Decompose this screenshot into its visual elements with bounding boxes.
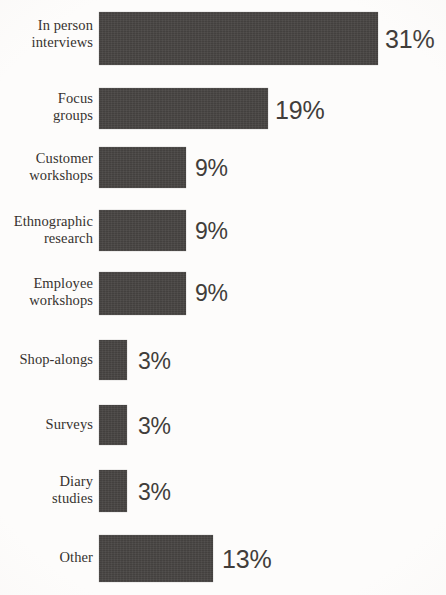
bar-category-label-line2: groups: [53, 107, 93, 123]
bar-row: Employee workshops 9%: [0, 272, 446, 315]
bar-category-label-line1: Surveys: [46, 416, 93, 432]
bar-row: Surveys 3%: [0, 405, 446, 445]
bar-row: Diary studies 3%: [0, 470, 446, 512]
horizontal-bar-chart: In person interviews 31% Focus groups 19…: [0, 0, 446, 595]
bar-value-label: 31%: [385, 27, 434, 52]
bar-category-label-line1: Employee: [33, 275, 93, 291]
bar-row: Ethnographic research 9%: [0, 210, 446, 251]
bar-category-label-line2: interviews: [32, 34, 93, 50]
bar: [99, 147, 186, 188]
bar-category-label-line2: research: [44, 230, 93, 246]
bar-category-label: Focus groups: [0, 90, 93, 124]
bar-row: Other 13%: [0, 535, 446, 582]
bar: [99, 272, 186, 315]
bar-category-label-line1: Ethnographic: [14, 213, 93, 229]
bar: [99, 535, 213, 582]
bar-value-label: 9%: [195, 282, 228, 305]
bar-category-label-line1: Focus: [58, 90, 93, 106]
bar: [99, 405, 127, 445]
bar-category-label: Surveys: [0, 416, 93, 433]
bar-category-label-line2: workshops: [29, 167, 93, 183]
bar: [99, 88, 268, 129]
bar-row: In person interviews 31%: [0, 12, 446, 65]
bar-value-label: 19%: [275, 98, 324, 123]
bar-row: Shop-alongs 3%: [0, 340, 446, 380]
bar-row: Customer workshops 9%: [0, 147, 446, 188]
bar-category-label: Shop-alongs: [0, 351, 93, 368]
bar-value-label: 9%: [195, 220, 228, 243]
bar-category-label: Ethnographic research: [0, 213, 93, 247]
bar-value-label: 13%: [222, 547, 271, 572]
bar-category-label-line1: Other: [59, 549, 93, 565]
bar-value-label: 3%: [138, 350, 171, 373]
bar-category-label-line1: Diary: [59, 473, 93, 489]
bar: [99, 210, 186, 251]
bar: [99, 470, 127, 512]
bar-category-label-line1: Customer: [36, 150, 93, 166]
bar-value-label: 3%: [138, 415, 171, 438]
bar-row: Focus groups 19%: [0, 88, 446, 129]
bar-category-label: Other: [0, 549, 93, 566]
bar: [99, 340, 127, 380]
bar-category-label: Customer workshops: [0, 150, 93, 184]
bar-value-label: 3%: [138, 481, 171, 504]
bar: [99, 12, 378, 65]
bar-category-label-line1: In person: [38, 17, 93, 33]
bar-category-label-line2: workshops: [29, 292, 93, 308]
bar-category-label-line2: studies: [52, 490, 93, 506]
bar-category-label: Diary studies: [0, 473, 93, 507]
bar-value-label: 9%: [195, 157, 228, 180]
bar-category-label: Employee workshops: [0, 275, 93, 309]
bar-category-label-line1: Shop-alongs: [19, 351, 93, 367]
bar-category-label: In person interviews: [0, 17, 93, 51]
